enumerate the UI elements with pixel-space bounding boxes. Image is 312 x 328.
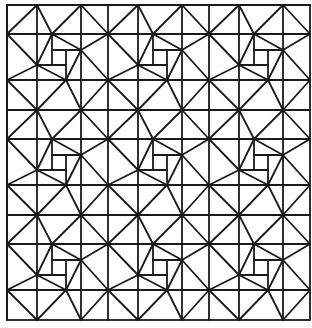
- pattern-segment: [182, 110, 209, 139]
- pattern-segment: [37, 5, 52, 34]
- pattern-segment: [66, 80, 81, 110]
- pattern-segment: [7, 34, 37, 65]
- pattern-segment: [209, 290, 239, 320]
- pattern-segment: [153, 5, 182, 34]
- pattern-segment: [138, 275, 167, 290]
- tiling-pattern: [0, 0, 312, 328]
- pattern-segment: [182, 155, 209, 185]
- pattern-lines: [7, 5, 310, 320]
- pattern-segment: [108, 290, 138, 320]
- pattern-segment: [209, 139, 239, 170]
- pattern-segment: [239, 139, 254, 170]
- pattern-segment: [108, 185, 138, 215]
- pattern-segment: [182, 185, 209, 215]
- pattern-segment: [81, 155, 108, 185]
- pattern-segment: [283, 155, 310, 185]
- pattern-segment: [138, 5, 153, 34]
- pattern-segment: [209, 275, 239, 290]
- pattern-segment: [268, 80, 283, 110]
- pattern-segment: [37, 65, 66, 80]
- pattern-segment: [254, 110, 283, 139]
- pattern-segment: [239, 65, 268, 80]
- pattern-segment: [209, 185, 239, 215]
- pattern-segment: [108, 170, 138, 185]
- pattern-segment: [138, 290, 167, 320]
- pattern-segment: [138, 185, 167, 215]
- pattern-segment: [182, 139, 209, 155]
- pattern-segment: [66, 260, 81, 290]
- pattern-segment: [108, 275, 138, 290]
- pattern-segment: [239, 80, 268, 110]
- pattern-segment: [7, 139, 37, 170]
- pattern-segment: [153, 110, 182, 139]
- pattern-segment: [81, 244, 108, 260]
- pattern-segment: [37, 185, 66, 215]
- pattern-segment: [239, 110, 254, 139]
- pattern-segment: [7, 5, 37, 34]
- pattern-segment: [7, 275, 37, 290]
- pattern-segment: [138, 110, 153, 139]
- pattern-segment: [239, 290, 268, 320]
- pattern-segment: [239, 244, 254, 275]
- pattern-segment: [108, 65, 138, 80]
- pattern-segment: [209, 5, 239, 34]
- pattern-segment: [7, 170, 37, 185]
- pattern-segment: [239, 215, 254, 244]
- pattern-segment: [138, 34, 153, 65]
- pattern-segment: [254, 5, 283, 34]
- pattern-segment: [138, 244, 153, 275]
- pattern-segment: [283, 244, 310, 260]
- pattern-segment: [81, 260, 108, 290]
- pattern-segment: [209, 110, 239, 139]
- pattern-segment: [153, 215, 182, 244]
- pattern-segment: [81, 215, 108, 244]
- pattern-segment: [283, 215, 310, 244]
- pattern-segment: [167, 260, 182, 290]
- pattern-segment: [167, 80, 182, 110]
- pattern-segment: [254, 139, 283, 155]
- pattern-segment: [66, 155, 81, 185]
- pattern-segment: [239, 5, 254, 34]
- pattern-segment: [81, 139, 108, 155]
- pattern-segment: [81, 290, 108, 320]
- pattern-segment: [283, 5, 310, 34]
- pattern-segment: [7, 215, 37, 244]
- pattern-segment: [182, 80, 209, 110]
- pattern-segment: [52, 215, 81, 244]
- pattern-segment: [167, 290, 182, 320]
- pattern-segment: [81, 110, 108, 139]
- pattern-segment: [52, 244, 81, 260]
- pattern-segment: [81, 50, 108, 80]
- pattern-segment: [138, 80, 167, 110]
- pattern-segment: [52, 139, 81, 155]
- pattern-segment: [138, 170, 167, 185]
- pattern-segment: [167, 185, 182, 215]
- pattern-segment: [81, 185, 108, 215]
- pattern-segment: [138, 215, 153, 244]
- pattern-segment: [66, 290, 81, 320]
- pattern-segment: [182, 215, 209, 244]
- pattern-segment: [7, 290, 37, 320]
- pattern-segment: [81, 5, 108, 34]
- pattern-segment: [153, 139, 182, 155]
- pattern-segment: [108, 5, 138, 34]
- pattern-segment: [182, 34, 209, 50]
- pattern-segment: [239, 275, 268, 290]
- pattern-segment: [7, 65, 37, 80]
- pattern-segment: [37, 215, 52, 244]
- pattern-segment: [268, 185, 283, 215]
- pattern-segment: [209, 34, 239, 65]
- pattern-segment: [153, 244, 182, 260]
- pattern-segment: [182, 290, 209, 320]
- pattern-segment: [268, 50, 283, 80]
- pattern-segment: [167, 50, 182, 80]
- pattern-segment: [239, 170, 268, 185]
- pattern-segment: [7, 80, 37, 110]
- pattern-segment: [283, 260, 310, 290]
- pattern-segment: [81, 80, 108, 110]
- pattern-segment: [7, 244, 37, 275]
- pattern-segment: [108, 34, 138, 65]
- pattern-segment: [283, 80, 310, 110]
- pattern-segment: [81, 34, 108, 50]
- pattern-segment: [268, 155, 283, 185]
